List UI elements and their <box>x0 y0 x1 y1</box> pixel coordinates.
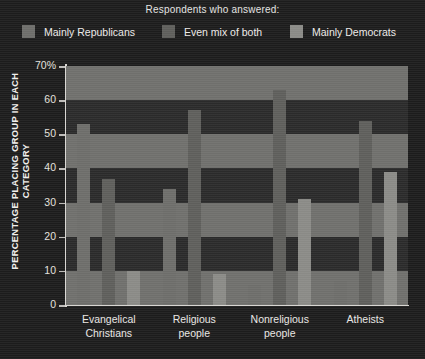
plot-area <box>66 66 408 305</box>
x-label-line: Religious <box>152 313 238 327</box>
y-tick-label: 50 <box>4 127 56 139</box>
y-tick-label: 40 <box>4 161 56 173</box>
x-label-line: Christians <box>66 327 152 341</box>
y-tick-label: 30 <box>4 196 56 208</box>
legend-item-republicans[interactable]: Mainly Republicans <box>22 25 162 38</box>
bar-group <box>66 66 152 305</box>
bar[interactable] <box>102 179 115 305</box>
bar-group <box>152 66 238 305</box>
bar[interactable] <box>384 172 397 305</box>
chart-legend: Mainly Republicans Even mix of both Main… <box>22 25 415 38</box>
x-axis-label: Religiouspeople <box>152 313 238 340</box>
x-label-line: people <box>237 327 323 341</box>
bar[interactable] <box>163 189 176 305</box>
x-axis-label: Nonreligiouspeople <box>237 313 323 340</box>
bar[interactable] <box>213 274 226 305</box>
y-tick-label: 60 <box>4 93 56 105</box>
y-tick-label: 0 <box>4 298 56 310</box>
legend-item-democrats[interactable]: Mainly Democrats <box>290 25 396 38</box>
legend-swatch-republicans <box>22 25 35 38</box>
x-axis-label: EvangelicalChristians <box>66 313 152 340</box>
bar-group <box>237 66 323 305</box>
bar[interactable] <box>273 90 286 305</box>
x-label-line: Evangelical <box>66 313 152 327</box>
bar[interactable] <box>77 124 90 305</box>
x-axis-category-labels: EvangelicalChristiansReligiouspeopleNonr… <box>66 310 408 356</box>
legend-label-democrats: Mainly Democrats <box>312 26 396 38</box>
legend-label-republicans: Mainly Republicans <box>44 26 135 38</box>
bar[interactable] <box>248 285 261 305</box>
legend-label-even-mix: Even mix of both <box>184 26 262 38</box>
bar[interactable] <box>298 199 311 305</box>
bar[interactable] <box>334 281 347 305</box>
x-label-line: people <box>152 327 238 341</box>
y-tick-label: 10 <box>4 264 56 276</box>
legend-item-even-mix[interactable]: Even mix of both <box>162 25 290 38</box>
y-tick-label: 20 <box>4 230 56 242</box>
x-axis-label: Atheists <box>323 313 409 327</box>
y-tick-label: 70% <box>4 59 56 71</box>
bar[interactable] <box>188 110 201 305</box>
chart-page: Respondents who answered: Mainly Republi… <box>0 0 425 359</box>
bar[interactable] <box>127 271 140 305</box>
x-label-line: Atheists <box>323 313 409 327</box>
legend-swatch-democrats <box>290 25 303 38</box>
legend-swatch-even-mix <box>162 25 175 38</box>
legend-title: Respondents who answered: <box>0 4 425 15</box>
x-label-line: Nonreligious <box>237 313 323 327</box>
bar[interactable] <box>359 121 372 305</box>
bar-group <box>323 66 409 305</box>
